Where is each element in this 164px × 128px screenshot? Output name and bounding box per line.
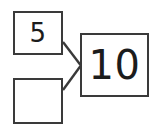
part-a-value: 5 — [29, 20, 46, 46]
diagram-canvas: 5 10 — [0, 0, 164, 128]
part-a-box[interactable]: 5 — [13, 11, 63, 55]
part-b-box[interactable] — [13, 78, 63, 124]
connector-bottom-line — [63, 66, 81, 90]
whole-value: 10 — [89, 45, 141, 85]
connector-top-line — [63, 42, 81, 65]
whole-box[interactable]: 10 — [80, 33, 149, 97]
